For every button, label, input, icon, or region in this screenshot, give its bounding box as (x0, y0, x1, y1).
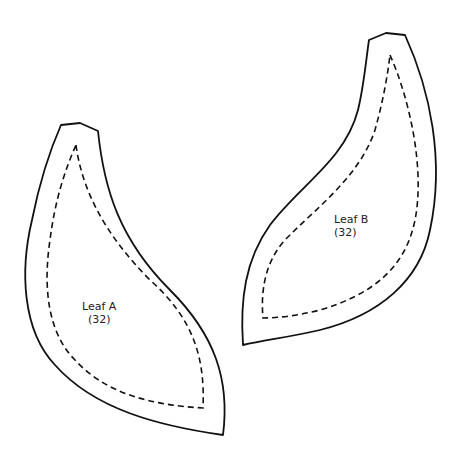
leaf-b-name: Leaf B (334, 213, 368, 226)
leaf-b-cutting-line (242, 33, 436, 345)
leaf-b-label: Leaf B (32) (334, 213, 368, 239)
leaf-b-sewing-line (262, 55, 418, 318)
leaf-b-count: (32) (334, 226, 368, 239)
leaf-a-piece (25, 123, 224, 435)
leaf-a-sewing-line (47, 145, 203, 408)
pattern-sheet: Leaf A (32) Leaf B (32) (0, 0, 464, 460)
leaf-a-count: (32) (82, 313, 116, 326)
leaf-a-cutting-line (25, 123, 224, 435)
leaf-a-label: Leaf A (32) (82, 300, 116, 326)
leaf-b-piece (242, 33, 436, 345)
leaf-a-name: Leaf A (82, 300, 116, 313)
pattern-drawing (0, 0, 464, 460)
